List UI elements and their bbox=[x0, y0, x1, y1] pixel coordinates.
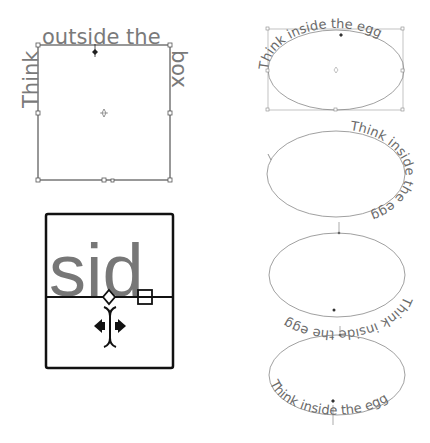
egg-text-2: Think inside the egg bbox=[348, 118, 417, 224]
egg-panel-1: Think inside the egg bbox=[256, 16, 404, 111]
start-indicator-icon[interactable] bbox=[331, 399, 335, 403]
center-point-icon bbox=[334, 67, 338, 73]
selection-handles[interactable] bbox=[36, 43, 172, 182]
egg-text-1: Think inside the egg bbox=[256, 16, 385, 72]
zoom-letters: sid bbox=[49, 229, 144, 312]
text-frame bbox=[38, 45, 170, 180]
box-panel: Think outside the box bbox=[19, 25, 191, 182]
start-indicator-icon[interactable] bbox=[333, 309, 336, 312]
text-top: outside the bbox=[42, 25, 161, 49]
start-indicator-icon[interactable] bbox=[339, 33, 343, 37]
text-left: Think bbox=[19, 50, 43, 109]
text-right: box bbox=[167, 50, 191, 88]
center-point-icon bbox=[100, 109, 108, 117]
egg-panel-2: Think inside the egg bbox=[267, 118, 418, 224]
zoom-detail-panel: sid bbox=[46, 214, 173, 368]
egg-text-4: Think inside the egg bbox=[267, 377, 391, 418]
figure-canvas: Think outside the box sid bbox=[0, 0, 430, 443]
egg-ellipse bbox=[269, 233, 405, 317]
start-tick bbox=[268, 154, 271, 160]
egg-panel-3: Think inside the egg bbox=[269, 222, 416, 343]
